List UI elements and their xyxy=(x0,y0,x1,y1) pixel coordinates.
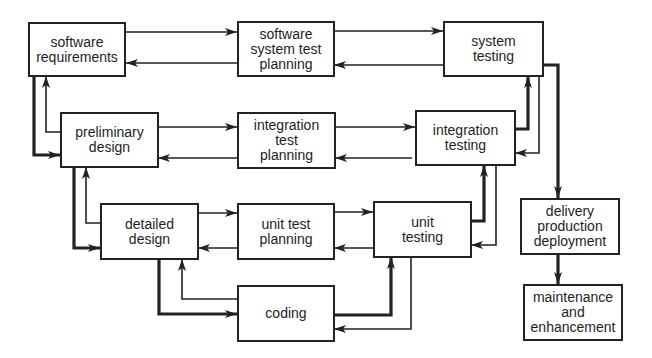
edge-uttest-to-inttest xyxy=(471,165,484,221)
node-unit-test-planning: unit test planning xyxy=(237,203,335,260)
edge-predes-to-detdes xyxy=(74,167,100,248)
node-preliminary-design: preliminary design xyxy=(60,112,159,168)
edge-predes-to-swreq xyxy=(46,76,60,132)
node-system-testing: system testing xyxy=(443,21,544,77)
edge-detdes-to-coding xyxy=(159,259,237,314)
edge-systest-to-delivery xyxy=(543,65,558,198)
node-unit-testing: unit testing xyxy=(373,201,472,258)
node-software-system-test-planning: software system test planning xyxy=(237,21,335,77)
node-integration-test-planning: integration test planning xyxy=(237,112,336,169)
edge-inttest-to-systest xyxy=(515,76,528,129)
node-delivery-production-deployment: delivery production deployment xyxy=(520,198,620,255)
node-detailed-design: detailed design xyxy=(100,203,199,260)
edge-coding-to-detdes xyxy=(182,259,237,299)
node-coding: coding xyxy=(237,285,335,342)
edge-swreq-to-predes xyxy=(34,76,60,155)
edge-uttest-to-coding xyxy=(334,257,411,329)
node-maintenance-and-enhancement: maintenance and enhancement xyxy=(523,284,623,341)
node-integration-testing: integration testing xyxy=(415,110,516,166)
v-model-diagram: software requirements software system te… xyxy=(0,0,652,358)
node-software-requirements: software requirements xyxy=(28,22,126,77)
edge-coding-to-uttest xyxy=(334,257,391,315)
edge-detdes-to-predes xyxy=(86,167,100,223)
